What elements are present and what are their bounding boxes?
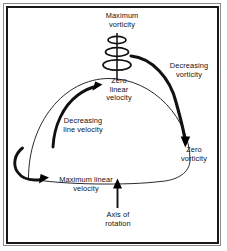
label-maximum-linear-velocity: Maximum linear velocity (46, 176, 126, 193)
figure-root: Maximum vorticity Zero linear velocity D… (0, 0, 227, 251)
label-decreasing-line-velocity: Decreasing line velocity (52, 117, 114, 134)
label-zero-linear-velocity: Zero linear velocity (95, 77, 143, 103)
label-maximum-vorticity: Maximum vorticity (92, 12, 152, 29)
label-decreasing-vorticity: Decreasing vorticity (162, 62, 216, 79)
label-zero-vorticity: Zero vorticity (170, 146, 218, 163)
label-axis-of-rotation: Axis of rotation (92, 211, 144, 228)
